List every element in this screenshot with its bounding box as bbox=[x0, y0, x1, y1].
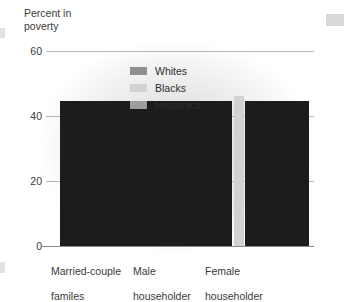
legend-swatch-hispanics-icon bbox=[130, 101, 147, 109]
category-label-married-couple: Married-couple familes bbox=[51, 252, 121, 302]
y-tick-60: 60 bbox=[20, 45, 42, 57]
category-label-married-couple-line1: Married-couple bbox=[51, 265, 121, 277]
gridline-60 bbox=[46, 51, 314, 52]
bar-blacks-female-householder bbox=[234, 96, 244, 246]
legend-label-whites: Whites bbox=[155, 65, 187, 77]
y-axis-title-line1: Percent in bbox=[24, 7, 71, 19]
legend-item-hispanics: Hispanics bbox=[130, 98, 201, 112]
scan-edge-mark-top-right bbox=[326, 14, 344, 26]
scan-dark-band-left bbox=[60, 101, 232, 246]
y-tick-40: 40 bbox=[20, 110, 42, 122]
chart-legend: Whites Blacks Hispanics bbox=[130, 64, 201, 115]
axis-baseline bbox=[42, 246, 314, 247]
legend-label-blacks: Blacks bbox=[155, 82, 186, 94]
legend-swatch-whites-icon bbox=[130, 67, 147, 75]
category-label-female-householder-line2: householder bbox=[205, 290, 263, 302]
category-label-married-couple-line2: familes bbox=[51, 290, 84, 302]
y-axis-title-line2: poverty bbox=[24, 20, 58, 32]
category-label-male-householder-line2: householder bbox=[133, 290, 191, 302]
y-tick-0: 0 bbox=[20, 240, 42, 252]
legend-label-hispanics: Hispanics bbox=[155, 99, 201, 111]
category-label-male-householder-line1: Male bbox=[133, 265, 156, 277]
y-tick-20: 20 bbox=[20, 175, 42, 187]
y-axis-title: Percent inpoverty bbox=[24, 7, 71, 32]
category-label-female-householder: Female householder bbox=[205, 252, 263, 302]
category-label-female-householder-line1: Female bbox=[205, 265, 240, 277]
scan-dark-band-right bbox=[245, 101, 309, 246]
scan-edge-mark-left-upper bbox=[0, 28, 5, 38]
category-label-male-householder: Male householder bbox=[133, 252, 191, 302]
legend-swatch-blacks-icon bbox=[130, 84, 147, 92]
legend-item-whites: Whites bbox=[130, 64, 201, 78]
scan-edge-mark-left-lower bbox=[0, 262, 5, 273]
legend-item-blacks: Blacks bbox=[130, 81, 201, 95]
